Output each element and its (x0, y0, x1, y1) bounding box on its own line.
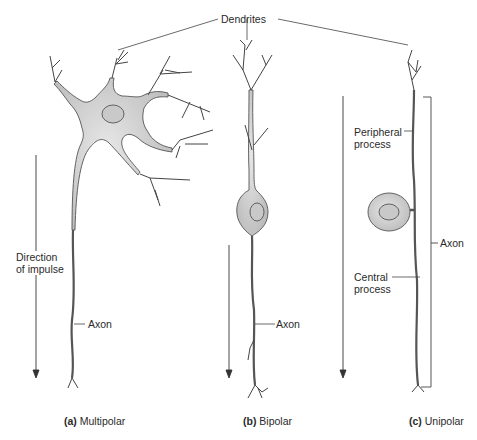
direction-of-impulse-label: Direction of impulse (16, 251, 64, 275)
central-process-label: Central process (354, 271, 391, 295)
peripheral-process-label: Peripheral process (354, 126, 402, 150)
neuron-diagram (0, 0, 477, 440)
caption-multipolar: (a) Multipolar (64, 415, 125, 427)
caption-bipolar: (b) Bipolar (243, 415, 292, 427)
multipolar-axon-label: Axon (88, 318, 112, 330)
multipolar-neuron (54, 78, 172, 378)
direction-arrows (33, 96, 346, 378)
caption-unipolar: (c) Unipolar (409, 415, 464, 427)
dendrites-label: Dendrites (221, 13, 266, 25)
bipolar-axon-label: Axon (276, 318, 300, 330)
axon-bracket (421, 97, 438, 387)
unipolar-axon-label: Axon (440, 237, 464, 249)
